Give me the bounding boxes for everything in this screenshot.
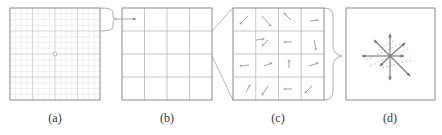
panel-c-label: (c) — [258, 111, 298, 126]
connector-c-to-d — [324, 8, 342, 100]
keypoint-center — [53, 52, 57, 56]
panel-d-orientation-histogram — [346, 8, 435, 100]
histogram-arrows — [362, 34, 410, 80]
panel-a-label: (a) — [35, 111, 75, 126]
panel-b-coarse-grid — [122, 8, 212, 100]
connector-b-to-c — [212, 8, 233, 100]
connector-a-to-b — [100, 8, 136, 31]
panel-a-fine-grid — [10, 8, 100, 100]
panel-c-orientation-grid — [233, 8, 324, 100]
panel-d-label: (d) — [370, 111, 410, 126]
figure: (a) (b) (c) (d) — [0, 0, 442, 135]
panel-b-label: (b) — [147, 111, 187, 126]
